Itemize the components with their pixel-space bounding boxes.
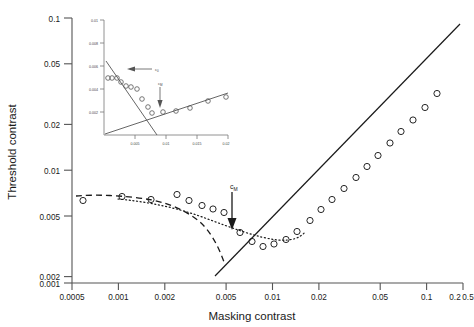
data-point bbox=[294, 228, 300, 234]
x-tick-label: 0.2 bbox=[449, 293, 461, 302]
c-sub-M-annotation: cM bbox=[228, 183, 238, 230]
data-point bbox=[410, 117, 416, 123]
y-tick-label: 0.1 bbox=[49, 15, 61, 24]
x-tick-label: 0.001 bbox=[108, 293, 129, 302]
dotted-model-curve bbox=[118, 199, 305, 240]
x-tick-label: 0.02 bbox=[311, 293, 327, 302]
inset-data-points bbox=[106, 76, 229, 116]
data-point bbox=[283, 236, 289, 242]
data-point bbox=[307, 217, 313, 223]
inset-y-tick-labels: 0.01 0.008 0.006 0.004 0.002 bbox=[89, 19, 98, 115]
inset-x-tick-labels: 0.005 0.01 0.015 0.02 bbox=[131, 142, 230, 146]
inset-y-tick-label: 0.002 bbox=[89, 111, 98, 115]
inset-x-tick-label: 0.005 bbox=[131, 142, 140, 146]
data-point bbox=[398, 128, 404, 134]
data-point bbox=[249, 238, 255, 244]
data-point bbox=[199, 202, 205, 208]
data-point bbox=[186, 197, 192, 203]
x-tick-label: 0.05 bbox=[372, 293, 388, 302]
inset-c-sub-M-annotation: cM bbox=[157, 81, 163, 108]
data-point bbox=[375, 152, 381, 158]
dashed-model-curve bbox=[76, 195, 224, 262]
y-tick-marks bbox=[64, 18, 72, 283]
inset-c-sub-M-label: cM bbox=[158, 81, 163, 87]
inset-y-tick-label: 0.004 bbox=[89, 88, 98, 92]
inset-data-point bbox=[224, 95, 229, 100]
y-tick-label: 0.001 bbox=[40, 280, 61, 289]
data-point bbox=[260, 243, 266, 249]
inset-c-sub-0-label: c0 bbox=[155, 67, 159, 73]
inset-data-point bbox=[135, 87, 140, 92]
data-point bbox=[271, 241, 277, 247]
inset-x-tick-label: 0.02 bbox=[223, 142, 230, 146]
inset-data-point bbox=[140, 97, 145, 102]
data-point bbox=[174, 191, 180, 197]
main-data-points bbox=[80, 90, 440, 249]
y-tick-label: 0.05 bbox=[44, 60, 60, 69]
inset-data-point bbox=[188, 106, 193, 111]
c-sub-M-label: cM bbox=[230, 183, 238, 192]
inset-y-tick-label: 0.01 bbox=[91, 19, 98, 23]
figure-container: 0.1 0.05 0.02 0.01 0.005 0.002 0.001 0.0… bbox=[0, 0, 474, 327]
x-tick-marks bbox=[72, 283, 463, 290]
x-axis-title: Masking contrast bbox=[209, 310, 297, 322]
inset-x-tick-label: 0.01 bbox=[163, 142, 170, 146]
inset-data-point bbox=[150, 111, 155, 116]
y-tick-label: 0.005 bbox=[40, 213, 61, 222]
inset-y-tick-label: 0.008 bbox=[89, 42, 98, 46]
x-tick-label: 0.01 bbox=[265, 293, 281, 302]
inset-data-point bbox=[161, 110, 166, 115]
y-tick-label: 0.02 bbox=[44, 121, 60, 130]
x-tick-label: 0.002 bbox=[155, 293, 176, 302]
inset-data-point bbox=[124, 84, 129, 89]
x-tick-label: 0.5 bbox=[462, 293, 474, 302]
x-tick-label: 0.0005 bbox=[59, 293, 84, 302]
data-point bbox=[364, 163, 370, 169]
y-axis-title: Threshold contrast bbox=[6, 104, 18, 200]
inset-x-tick-marks bbox=[135, 135, 228, 139]
data-point bbox=[329, 196, 335, 202]
inset-y-tick-marks bbox=[100, 20, 104, 112]
chart-svg: 0.1 0.05 0.02 0.01 0.005 0.002 0.001 0.0… bbox=[0, 0, 474, 327]
data-point bbox=[221, 209, 227, 215]
x-tick-label: 0.005 bbox=[216, 293, 237, 302]
inset-chart: 0.01 0.008 0.006 0.004 0.002 0.005 0.01 … bbox=[89, 19, 230, 146]
inset-c-sub-0-annotation: c0 bbox=[127, 66, 159, 73]
y-tick-label: 0.01 bbox=[44, 167, 60, 176]
data-point bbox=[353, 174, 359, 180]
x-tick-label: 0.1 bbox=[421, 293, 433, 302]
data-point bbox=[387, 140, 393, 146]
inset-y-tick-label: 0.006 bbox=[89, 65, 98, 69]
data-point bbox=[341, 185, 347, 191]
inset-x-tick-label: 0.015 bbox=[193, 142, 202, 146]
data-point bbox=[318, 206, 324, 212]
inset-descending-line bbox=[106, 61, 157, 135]
data-point bbox=[434, 90, 440, 96]
inset-data-point bbox=[146, 105, 151, 110]
data-point bbox=[210, 206, 216, 212]
main-axes bbox=[72, 18, 463, 283]
y-tick-labels: 0.1 0.05 0.02 0.01 0.005 0.002 0.001 bbox=[40, 15, 61, 289]
data-point bbox=[80, 197, 86, 203]
x-tick-labels: 0.0005 0.001 0.002 0.005 0.01 0.02 0.05 … bbox=[59, 293, 474, 302]
data-point bbox=[422, 104, 428, 110]
inset-data-point bbox=[129, 85, 134, 90]
